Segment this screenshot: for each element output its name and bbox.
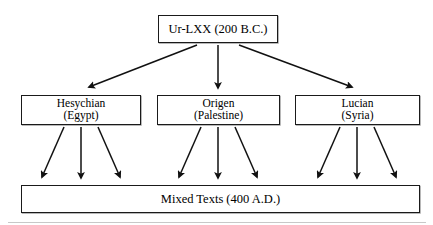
edge-root-to-lucian — [239, 45, 352, 87]
edge-origen-to-mixed-left — [179, 127, 201, 177]
edge-root-to-hesychian — [89, 45, 197, 87]
node-origen-line-2: (Palestine) — [194, 110, 243, 122]
edge-hesychian-to-mixed-right — [98, 127, 120, 177]
edge-hesychian-to-mixed-left — [42, 127, 64, 177]
node-origen: Origen (Palestine) — [157, 95, 280, 125]
node-hesychian-line-2: (Egypt) — [63, 110, 98, 122]
edge-lucian-to-mixed-right — [374, 127, 396, 177]
edge-lucian-to-mixed-left — [318, 127, 340, 177]
diagram-canvas: Ur-LXX (200 B.C.) Hesychian (Egypt) Orig… — [0, 0, 433, 225]
node-mixed-texts: Mixed Texts (400 A.D.) — [21, 185, 420, 213]
node-ur-lxx-line-1: Ur-LXX (200 B.C.) — [168, 23, 267, 36]
node-mixed-texts-line-1: Mixed Texts (400 A.D.) — [161, 193, 280, 206]
node-ur-lxx: Ur-LXX (200 B.C.) — [158, 15, 278, 43]
page-bottom-rule — [8, 222, 426, 223]
edge-origen-to-mixed-right — [235, 127, 257, 177]
node-hesychian: Hesychian (Egypt) — [21, 95, 141, 125]
node-lucian-line-2: (Syria) — [342, 110, 374, 122]
node-lucian: Lucian (Syria) — [295, 95, 420, 125]
